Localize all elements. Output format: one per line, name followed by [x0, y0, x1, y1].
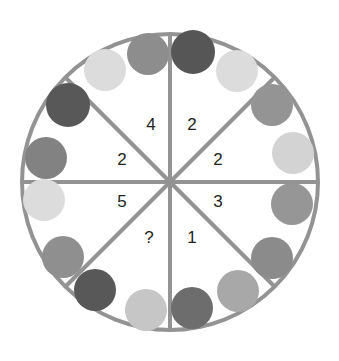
wheel-dot — [272, 132, 314, 174]
wheel-dot — [127, 33, 169, 75]
wheel-dot — [25, 137, 67, 179]
sector-label-top-left: 4 — [146, 115, 155, 134]
sector-label-left-upper: 2 — [117, 150, 126, 169]
wheel-dot — [84, 49, 126, 91]
sector-label-bottom-left: ? — [144, 228, 153, 247]
wheel-dot — [251, 237, 293, 279]
sector-label-bottom-right: 1 — [187, 228, 196, 247]
wheel-dot — [217, 270, 259, 312]
spoke-group — [22, 34, 318, 330]
wheel-dot — [171, 287, 213, 329]
wheel-dot — [46, 83, 90, 127]
sector-wheel-diagram: 2231?524 — [0, 0, 339, 361]
sector-label-top-right: 2 — [187, 115, 196, 134]
wheel-dot — [23, 179, 65, 221]
sector-label-right-lower: 3 — [213, 192, 222, 211]
wheel-dot — [125, 289, 167, 331]
puzzle-figure: 2231?524 — [0, 0, 339, 361]
sector-label-right-upper: 2 — [213, 150, 222, 169]
wheel-dot — [271, 183, 313, 225]
wheel-dot — [216, 50, 258, 92]
wheel-dot — [171, 30, 215, 74]
wheel-dot — [74, 269, 116, 311]
sector-label-left-lower: 5 — [117, 192, 126, 211]
wheel-dot — [251, 84, 293, 126]
wheel-dot — [42, 236, 84, 278]
